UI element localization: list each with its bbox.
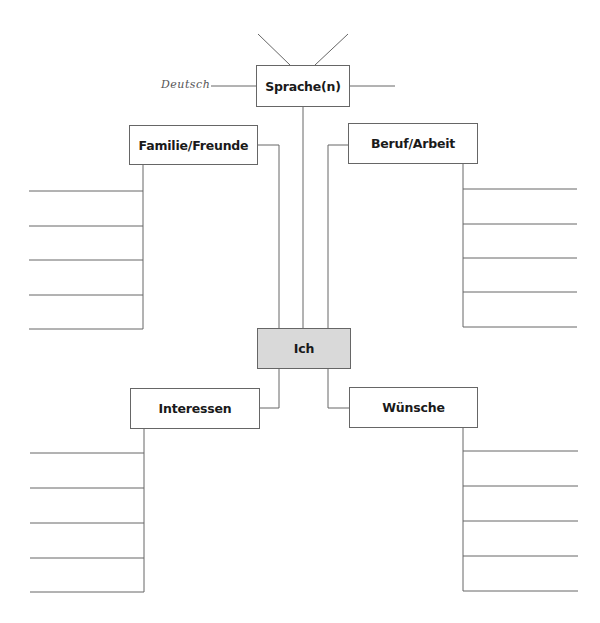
- node-interessen: Interessen: [130, 388, 260, 429]
- node-familie: Familie/Freunde: [129, 125, 258, 165]
- node-wuensche: Wünsche: [349, 387, 478, 428]
- node-sprache-label: Sprache(n): [265, 79, 341, 94]
- node-ich: Ich: [257, 328, 351, 369]
- node-familie-label: Familie/Freunde: [139, 138, 249, 153]
- node-wuensche-label: Wünsche: [382, 400, 444, 415]
- node-ich-label: Ich: [294, 341, 314, 356]
- handwritten-deutsch: Deutsch: [161, 78, 210, 91]
- node-sprache: Sprache(n): [256, 65, 350, 107]
- node-beruf: Beruf/Arbeit: [348, 123, 478, 164]
- node-interessen-label: Interessen: [159, 401, 232, 416]
- node-beruf-label: Beruf/Arbeit: [371, 136, 455, 151]
